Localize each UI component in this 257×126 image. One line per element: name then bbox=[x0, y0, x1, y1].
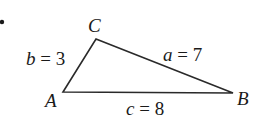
side-a-var: a bbox=[163, 44, 173, 65]
side-label-a: a = 7 bbox=[163, 44, 202, 65]
vertex-label-a: A bbox=[43, 90, 57, 111]
side-a-value: = 7 bbox=[173, 44, 203, 65]
side-b-var: b bbox=[26, 48, 36, 69]
triangle-diagram: C A B b = 3 a = 7 c = 8 bbox=[0, 0, 257, 126]
side-label-c: c = 8 bbox=[126, 98, 164, 119]
side-b-value: = 3 bbox=[36, 48, 66, 69]
triangle-abc bbox=[63, 39, 233, 93]
vertex-label-b: B bbox=[237, 88, 249, 109]
side-label-b: b = 3 bbox=[26, 48, 65, 69]
vertex-label-c: C bbox=[88, 15, 101, 36]
bullet-dot bbox=[0, 20, 4, 24]
side-c-value: = 8 bbox=[134, 98, 164, 119]
